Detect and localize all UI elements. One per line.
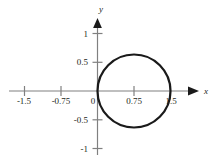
- x-tick-label-0.75: 0.75: [126, 97, 142, 106]
- y-tick-label--1: -1: [62, 145, 88, 154]
- cartesian-plot-figure: -1.5 -0.75 0 0.75 1.5 1 0.5 -0.5 -1 y x: [0, 0, 217, 165]
- y-tick-label-0.5: 0.5: [62, 58, 88, 67]
- x-tick-label-0: 0: [91, 97, 96, 106]
- y-axis-arrowhead: [93, 18, 102, 28]
- x-tick-label-1.5: 1.5: [165, 97, 176, 106]
- x-axis-arrowhead: [188, 87, 199, 96]
- x-axis-label: x: [204, 87, 208, 96]
- y-tick-label--0.5: -0.5: [62, 116, 88, 125]
- plot-canvas: [0, 0, 217, 165]
- y-tick-label-1: 1: [62, 30, 88, 39]
- x-tick-label--0.75: -0.75: [52, 97, 71, 106]
- y-axis-label: y: [99, 5, 103, 14]
- x-tick-label--1.5: -1.5: [17, 97, 31, 106]
